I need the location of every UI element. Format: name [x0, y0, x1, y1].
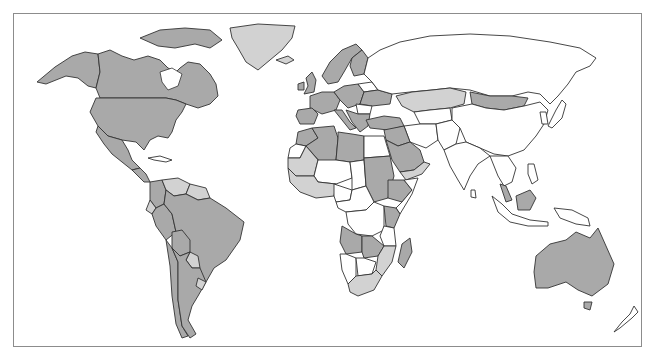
region-southeast-asia [490, 156, 516, 186]
region-australia [534, 228, 614, 296]
region-ireland [298, 82, 304, 90]
region-new-zealand [614, 306, 638, 332]
world-map [0, 0, 655, 361]
region-tasmania [584, 302, 592, 310]
region-borneo-malaysia [516, 190, 536, 210]
region-alaska [37, 52, 100, 88]
region-tanzania [380, 226, 396, 246]
region-sri-lanka [471, 190, 476, 198]
region-canada-arctic [140, 28, 222, 48]
region-libya [336, 132, 364, 162]
region-romania [356, 104, 372, 114]
region-papua [554, 208, 590, 226]
region-madagascar [398, 238, 412, 268]
region-mali-niger [314, 160, 352, 184]
region-malaysia [500, 184, 512, 202]
region-cuba [148, 156, 172, 162]
region-iceland [276, 56, 294, 64]
region-uk [304, 72, 316, 94]
region-central-america [132, 168, 150, 182]
region-japan [548, 100, 566, 128]
region-philippines [528, 164, 538, 184]
region-nigeria [334, 184, 352, 202]
region-iberia [296, 108, 318, 124]
region-chad [350, 160, 366, 190]
region-russia [364, 34, 596, 104]
